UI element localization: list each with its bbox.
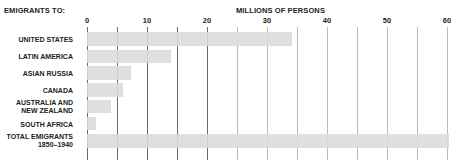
- bar-united-states: [87, 32, 292, 46]
- category-axis-title: EMIGRANTS TO:: [4, 6, 65, 15]
- tick-label: 10: [143, 16, 151, 25]
- category-label: SOUTH AFRICA: [20, 121, 73, 129]
- tick-label: 20: [203, 16, 211, 25]
- bar-latin-america: [87, 50, 171, 63]
- category-label: CANADA: [43, 87, 73, 95]
- tick-label: 40: [323, 16, 331, 25]
- category-label: UNITED STATES: [18, 36, 73, 44]
- tick-label: 30: [263, 16, 271, 25]
- value-axis-title: MILLIONS OF PERSONS: [236, 6, 325, 15]
- bar-asian-russia: [87, 66, 131, 80]
- category-label: AUSTRALIA AND NEW ZEALAND: [16, 99, 73, 115]
- category-label: ASIAN RUSSIA: [23, 70, 73, 78]
- tick-label: 0: [85, 16, 89, 25]
- bar-total-emigrants: [87, 134, 449, 148]
- category-label: LATIN AMERICA: [19, 53, 73, 61]
- bar-australia-nz: [87, 100, 111, 113]
- bar-canada: [87, 83, 123, 97]
- category-label: TOTAL EMIGRANTS 1850–1940: [7, 133, 74, 149]
- tick-label: 50: [383, 16, 391, 25]
- bar-south-africa: [87, 117, 96, 130]
- tick-label: 60: [443, 16, 451, 25]
